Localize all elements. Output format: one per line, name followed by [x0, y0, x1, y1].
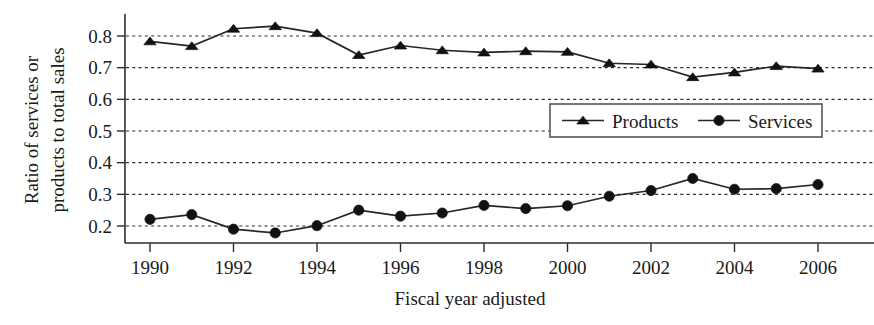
data-point-services-2001: [604, 191, 614, 201]
chart-container: 0.20.30.40.50.60.70.8 199019921994199619…: [0, 0, 874, 325]
x-tick-label-1992: 1992: [215, 257, 253, 278]
data-point-products-1996: [394, 41, 406, 49]
legend-label-products: Products: [612, 111, 679, 132]
y-tick-label-0.5: 0.5: [88, 121, 112, 142]
x-axis-title: Fiscal year adjusted: [395, 288, 546, 309]
y-tick-label-0.6: 0.6: [88, 89, 112, 110]
data-point-services-2002: [646, 185, 656, 195]
data-point-services-1990: [145, 214, 155, 224]
data-point-services-1992: [228, 224, 238, 234]
x-tick-label-1990: 1990: [131, 257, 169, 278]
y-tick-label-0.7: 0.7: [88, 57, 112, 78]
data-point-services-2005: [771, 184, 781, 194]
x-axis-ticks: 199019921994199619982000200220042006: [131, 243, 837, 278]
x-tick-label-2006: 2006: [799, 257, 837, 278]
y-axis-title-line-2: products to total sales: [47, 47, 68, 212]
line-chart: 0.20.30.40.50.60.70.8 199019921994199619…: [0, 0, 874, 325]
legend-marker-services: [714, 115, 724, 125]
x-tick-label-1996: 1996: [382, 257, 420, 278]
x-tick-label-1994: 1994: [298, 257, 337, 278]
data-point-services-2000: [562, 201, 572, 211]
y-tick-label-0.4: 0.4: [88, 152, 112, 173]
data-point-services-1995: [354, 205, 364, 215]
data-point-services-1997: [437, 208, 447, 218]
data-point-services-1998: [479, 200, 489, 210]
data-point-services-1996: [395, 211, 405, 221]
y-tick-label-0.2: 0.2: [88, 216, 112, 237]
legend-label-services: Services: [748, 111, 812, 132]
data-point-services-2004: [729, 184, 739, 194]
x-tick-label-1998: 1998: [465, 257, 503, 278]
x-tick-label-2002: 2002: [632, 257, 670, 278]
data-point-services-1994: [312, 221, 322, 231]
chart-legend: ProductsServices: [550, 104, 822, 137]
x-tick-label-2004: 2004: [716, 257, 755, 278]
data-point-products-1990: [144, 37, 156, 45]
data-point-services-1993: [270, 228, 280, 238]
data-point-services-2003: [688, 173, 698, 183]
data-point-services-1991: [187, 210, 197, 220]
y-tick-label-0.3: 0.3: [88, 184, 112, 205]
x-tick-label-2000: 2000: [549, 257, 587, 278]
y-tick-label-0.8: 0.8: [88, 26, 112, 47]
y-axis-title-line-1: Ratio of services or: [21, 55, 42, 204]
y-axis-ticks: 0.20.30.40.50.60.70.8: [88, 26, 125, 237]
data-point-services-1999: [521, 203, 531, 213]
data-point-services-2006: [813, 179, 823, 189]
